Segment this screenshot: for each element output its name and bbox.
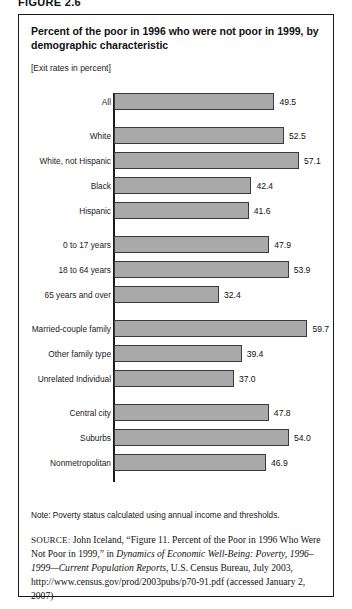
- bar-value-label: 42.4: [256, 181, 273, 191]
- bar-category-label: All: [102, 97, 111, 107]
- chart-note: Note: Poverty status calculated using an…: [31, 511, 323, 522]
- bar-value-label: 39.4: [247, 349, 264, 359]
- bar: [114, 202, 249, 219]
- bar: [114, 152, 299, 169]
- bar-category-label: Other family type: [48, 349, 111, 359]
- bar-category-label: White, not Hispanic: [40, 156, 111, 166]
- bar: [114, 320, 307, 337]
- bar: [114, 127, 284, 144]
- chart-source: SOURCE: John Iceland, “Figure 11. Percen…: [31, 533, 325, 603]
- bar-value-label: 54.0: [294, 433, 311, 443]
- bar-value-label: 32.4: [224, 290, 241, 300]
- bar: [114, 370, 234, 387]
- bar-row: Central city47.8: [19, 404, 335, 421]
- bar-value-label: 53.9: [294, 265, 311, 275]
- bar: [114, 286, 219, 303]
- bar: [114, 261, 289, 278]
- bar-value-label: 47.9: [274, 240, 291, 250]
- bar-value-label: 52.5: [289, 131, 306, 141]
- bar: [114, 177, 251, 194]
- bar-chart-plot: All49.5White52.5White, not Hispanic57.1B…: [19, 93, 335, 501]
- bar-row: Other family type39.4: [19, 345, 335, 362]
- bar-row: Hispanic41.6: [19, 202, 335, 219]
- bar-row: 0 to 17 years47.9: [19, 236, 335, 253]
- bar-category-label: 0 to 17 years: [63, 240, 111, 250]
- bar-value-label: 46.9: [271, 458, 288, 468]
- bar-row: 65 years and over32.4: [19, 286, 335, 303]
- bar-category-label: Unrelated Individual: [38, 374, 111, 384]
- bar-value-label: 47.8: [274, 408, 291, 418]
- bar-row: Married-couple family59.7: [19, 320, 335, 337]
- bar: [114, 236, 269, 253]
- bar: [114, 345, 242, 362]
- bar-value-label: 57.1: [304, 156, 321, 166]
- bar-row: All49.5: [19, 93, 335, 110]
- bar-category-label: Central city: [70, 408, 112, 418]
- bar: [114, 404, 269, 421]
- bar-row: White, not Hispanic57.1: [19, 152, 335, 169]
- bar-value-label: 37.0: [239, 374, 256, 384]
- bar-category-label: White: [90, 131, 111, 141]
- bar-category-label: 18 to 64 years: [58, 265, 111, 275]
- bar-category-label: 65 years and over: [45, 290, 111, 300]
- bar-category-label: Nonmetropolitan: [50, 458, 111, 468]
- bar-row: 18 to 64 years53.9: [19, 261, 335, 278]
- bar-value-label: 49.5: [279, 97, 296, 107]
- bar-row: Suburbs54.0: [19, 429, 335, 446]
- bar-value-label: 41.6: [254, 206, 271, 216]
- figure-panel: Percent of the poor in 1996 who were not…: [18, 14, 334, 597]
- bar-row: White52.5: [19, 127, 335, 144]
- bar-row: Nonmetropolitan46.9: [19, 454, 335, 471]
- bar-category-label: Suburbs: [80, 433, 111, 443]
- bar: [114, 429, 289, 446]
- bar-category-label: Hispanic: [79, 206, 111, 216]
- bar-value-label: 59.7: [312, 324, 329, 334]
- chart-subtitle: [Exit rates in percent]: [31, 63, 111, 73]
- source-label: SOURCE:: [31, 535, 70, 545]
- bar-row: Black42.4: [19, 177, 335, 194]
- page-title: Percent of the poor in 1996 who were not…: [31, 24, 321, 52]
- bar: [114, 454, 266, 471]
- bar-category-label: Black: [91, 181, 111, 191]
- bar-row: Unrelated Individual37.0: [19, 370, 335, 387]
- bar: [114, 93, 274, 110]
- figure-number: FIGURE 2.6: [18, 0, 81, 8]
- bar-category-label: Married-couple family: [32, 324, 111, 334]
